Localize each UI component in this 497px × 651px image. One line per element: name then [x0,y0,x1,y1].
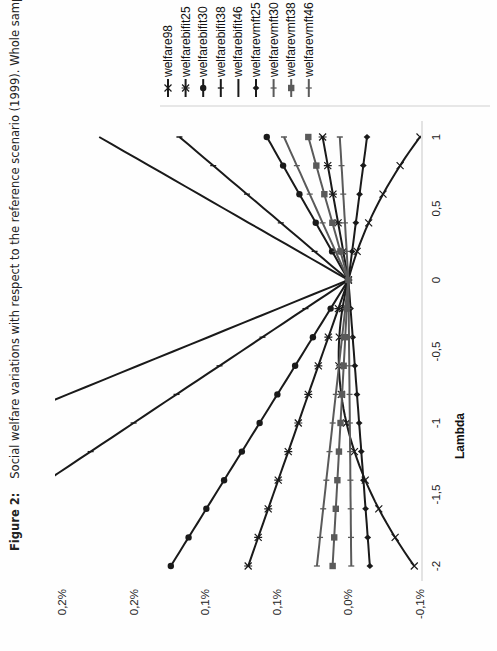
series-welfarebifit46 [0,137,348,566]
x-tick-label: -1 [430,418,442,428]
legend-label: welfarevmft46 [302,2,316,78]
legend-label: welfarebifit38 [214,6,228,78]
page: Figure 2:Social welfare variations with … [0,0,497,651]
legend-item-welfarevmft46: welfarevmft46 [302,2,316,97]
x-axis: -2-1,5-1-0,500,51 [422,121,442,581]
legend-label: welfarevmft30 [267,2,281,78]
legend-item-welfare98: welfare98 [161,25,175,97]
y-tick-label: -0,1% [414,589,426,619]
plot-area [0,134,424,570]
legend-label: welfarevmft38 [284,2,298,78]
series-welfarevmft30 [281,137,351,566]
legend-label: welfarebifit25 [179,6,193,78]
rotated-figure: Figure 2:Social welfare variations with … [0,0,497,651]
y-tick-label: 0,2% [56,589,68,615]
legend: welfare98welfarebifit25welfarebifit30wel… [160,2,490,106]
x-tick-label: 1 [430,134,442,140]
legend-label: welfarebifit46 [231,6,245,78]
x-tick-label: 0,5 [430,201,442,217]
x-axis-label: Lambda [453,413,467,459]
y-tick-label: 0,2% [128,589,140,615]
x-tick-label: 0 [430,277,442,283]
series-welfarebifit38 [0,137,351,566]
legend-item-welfarevmft38: welfarevmft38 [284,2,298,97]
legend-item-welfarebifit25: welfarebifit25 [179,6,193,97]
legend-item-welfarevmft30: welfarevmft30 [267,2,281,97]
x-tick-label: -2 [430,561,442,571]
y-tick-label: 0,0% [342,589,354,615]
y-tick-label: 0,1% [199,589,211,615]
y-axis-ticks: -0,1%0,0%0,1%0,1%0,2%0,2% [56,589,426,619]
legend-label: welfare98 [161,25,175,78]
x-tick-label: -0,5 [430,342,442,362]
legend-item-welfarebifit30: welfarebifit30 [196,6,210,97]
legend-label: welfarebifit30 [196,6,210,78]
x-tick-label: -1,5 [430,485,442,505]
legend-item-welfarebifit46: welfarebifit46 [231,6,245,97]
y-tick-label: 0,1% [271,589,283,615]
line-chart: -0,1%0,0%0,1%0,1%0,2%0,2% -2-1,5-1-0,500… [0,0,497,651]
legend-item-welfarebifit38: welfarebifit38 [214,6,228,97]
legend-item-welfarevmft25: welfarevmft25 [249,2,263,97]
legend-label: welfarevmft25 [249,2,263,78]
